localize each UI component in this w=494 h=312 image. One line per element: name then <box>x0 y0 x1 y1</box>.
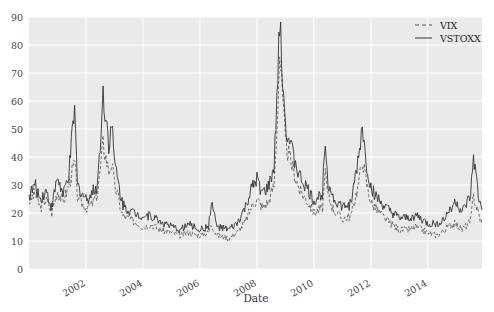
x-axis-label: Date <box>243 292 268 304</box>
x-tick-label: 2002 <box>61 277 87 299</box>
x-tick-label: 2006 <box>174 277 200 299</box>
y-tick-label: 60 <box>11 96 23 107</box>
x-tick-label: 2014 <box>402 277 428 299</box>
x-tick-label: 2004 <box>118 277 144 299</box>
legend-vix-label: VIX <box>439 20 458 31</box>
y-axis-ticks: 0102030405060708090 <box>11 12 23 275</box>
y-tick-label: 10 <box>11 236 23 247</box>
y-tick-label: 90 <box>11 12 23 23</box>
y-tick-label: 50 <box>11 124 23 135</box>
line-chart: 0102030405060708090 20022004200620082010… <box>0 0 494 312</box>
x-tick-label: 2012 <box>345 277 371 299</box>
y-tick-label: 80 <box>11 40 23 51</box>
y-tick-label: 40 <box>11 152 23 163</box>
plot-background <box>29 17 482 269</box>
y-tick-label: 0 <box>17 264 23 275</box>
y-tick-label: 30 <box>11 180 23 191</box>
legend-vstoxx-label: VSTOXX <box>439 33 481 44</box>
x-tick-label: 2010 <box>288 277 314 299</box>
y-tick-label: 70 <box>11 68 23 79</box>
y-tick-label: 20 <box>11 208 23 219</box>
